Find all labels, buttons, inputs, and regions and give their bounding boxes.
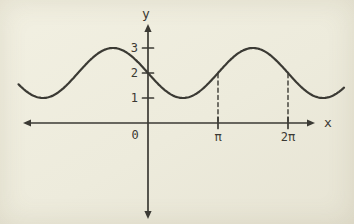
y-tick-label-0: 1: [131, 92, 138, 104]
y-tick-label-1: 2: [131, 67, 138, 79]
y-axis-label: y: [142, 7, 150, 20]
x-axis-label: x: [324, 116, 332, 129]
y-tick-label-2: 3: [131, 42, 138, 54]
graph-canvas: [0, 0, 354, 224]
x-tick-label-1: 2π: [281, 131, 295, 143]
graph-figure: y x 0 1 2 3 π 2π: [0, 0, 354, 224]
x-tick-label-0: π: [214, 131, 221, 143]
origin-label: 0: [131, 129, 138, 141]
